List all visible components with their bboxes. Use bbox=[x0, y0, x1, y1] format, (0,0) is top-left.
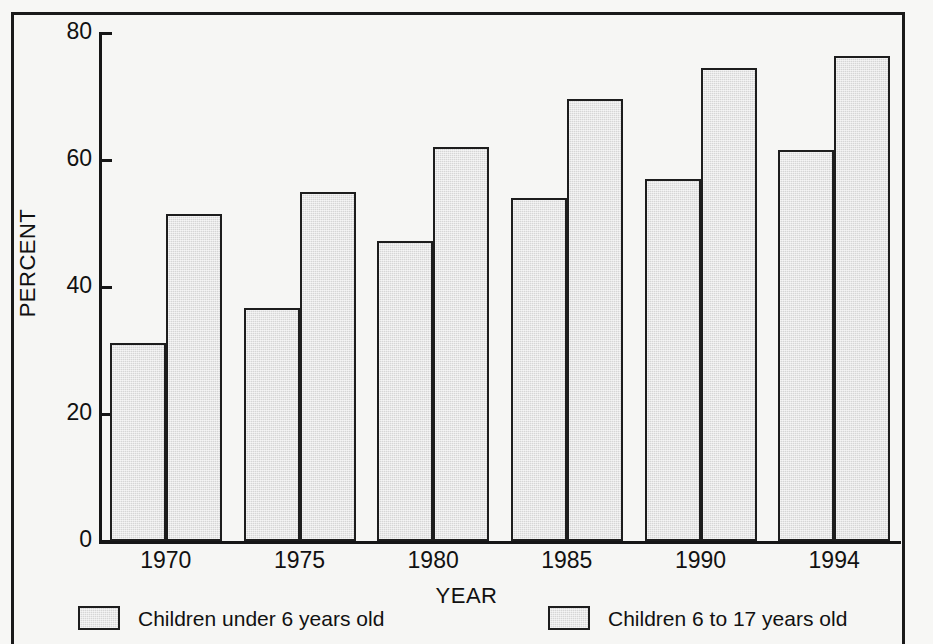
bar bbox=[166, 214, 222, 541]
legend-entry: Children under 6 years old bbox=[78, 606, 384, 630]
x-axis-tick-label: 1990 bbox=[641, 549, 761, 572]
x-axis-tick-label: 1994 bbox=[774, 549, 894, 572]
bar bbox=[567, 99, 623, 541]
x-axis-tick-label: 1980 bbox=[373, 549, 493, 572]
bar bbox=[433, 147, 489, 541]
bar bbox=[244, 308, 300, 541]
bar bbox=[778, 150, 834, 541]
legend-label: Children under 6 years old bbox=[138, 608, 384, 629]
bar bbox=[834, 56, 890, 541]
bar bbox=[110, 343, 166, 541]
bar bbox=[300, 192, 356, 541]
legend-label: Children 6 to 17 years old bbox=[608, 608, 847, 629]
x-axis-tick-label: 1970 bbox=[106, 549, 226, 572]
x-axis-tick-label: 1975 bbox=[240, 549, 360, 572]
bar bbox=[701, 68, 757, 541]
x-axis-tick-label: 1985 bbox=[507, 549, 627, 572]
legend-swatch-icon bbox=[78, 606, 120, 630]
legend-entry: Children 6 to 17 years old bbox=[548, 606, 847, 630]
bar bbox=[511, 198, 567, 541]
bar bbox=[377, 241, 433, 541]
chart-legend: Children under 6 years old Children 6 to… bbox=[0, 606, 933, 644]
legend-swatch-icon bbox=[548, 606, 590, 630]
bar bbox=[645, 179, 701, 541]
